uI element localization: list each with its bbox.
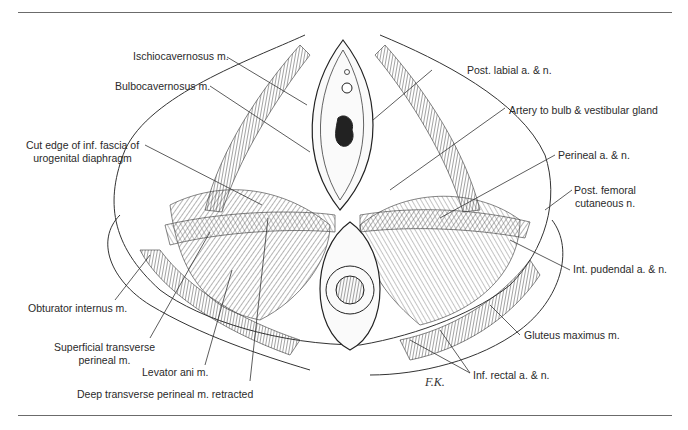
- label-cut-edge-line2: urogenital diaphragm: [20, 152, 145, 165]
- label-post-labial: Post. labial a. & n.: [467, 64, 552, 77]
- label-gluteus-maximus: Gluteus maximus m.: [524, 329, 620, 342]
- label-cut-edge-fascia: Cut edge of inf. fascia of urogenital di…: [20, 139, 145, 164]
- label-cut-edge-line1: Cut edge of inf. fascia of: [20, 139, 145, 152]
- artist-signature: F.K.: [424, 375, 445, 389]
- label-obturator-internus: Obturator internus m.: [28, 302, 127, 315]
- label-perineal: Perineal a. & n.: [558, 149, 630, 162]
- label-deep-transverse-perineal: Deep transverse perineal m. retracted: [77, 388, 253, 401]
- label-post-femoral-cutaneous: Post. femoral cutaneous n.: [565, 184, 645, 209]
- label-superficial-transverse-line2: perineal m.: [52, 354, 157, 367]
- label-superficial-transverse-line1: Superficial transverse: [52, 341, 157, 354]
- vestibule: [312, 40, 373, 210]
- label-post-femoral-line2: cutaneous n.: [565, 197, 645, 210]
- label-bulbocavernosus: Bulbocavernosus m.: [115, 80, 210, 93]
- label-int-pudendal: Int. pudendal a. & n.: [573, 263, 667, 276]
- label-inf-rectal: Inf. rectal a. & n.: [473, 369, 549, 382]
- label-post-femoral-line1: Post. femoral: [565, 184, 645, 197]
- label-artery-to-bulb: Artery to bulb & vestibular gland: [509, 104, 658, 117]
- label-superficial-transverse-perineal: Superficial transverse perineal m.: [52, 341, 157, 366]
- label-ischiocavernosus: Ischiocavernosus m.: [133, 50, 229, 63]
- label-levator-ani: Levator ani m.: [142, 366, 209, 379]
